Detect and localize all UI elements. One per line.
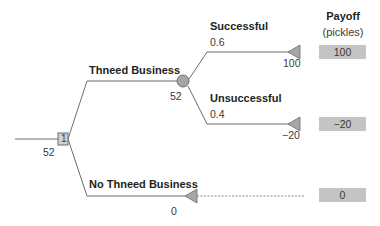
unsuccessful-branch-label: Unsuccessful [210, 92, 282, 104]
payoff-box-no-thneed: 0 [319, 188, 366, 202]
successful-value: 100 [283, 57, 301, 69]
no-thneed-branch-label: No Thneed Business [89, 178, 198, 190]
decision-node-id: 1 [61, 133, 67, 145]
unsuccessful-probability: 0.4 [210, 108, 225, 120]
successful-branch-line [189, 52, 290, 79]
chance-node-value: 52 [170, 90, 182, 102]
unsuccessful-value: −20 [282, 129, 300, 141]
payoff-box-unsuccessful: −20 [319, 117, 366, 131]
payoff-header-title: Payoff [313, 9, 373, 24]
successful-probability: 0.6 [210, 36, 225, 48]
no-thneed-value: 0 [171, 205, 177, 217]
terminal-triangle-no-thneed [185, 189, 197, 203]
thneed-branch-line [68, 81, 177, 139]
chance-node-circle [177, 75, 189, 87]
successful-branch-label: Successful [210, 20, 268, 32]
thneed-branch-label: Thneed Business [89, 64, 180, 76]
decision-node-value: 52 [43, 146, 55, 158]
payoff-header-unit: (pickles) [313, 25, 373, 40]
payoff-box-successful: 100 [319, 45, 366, 59]
